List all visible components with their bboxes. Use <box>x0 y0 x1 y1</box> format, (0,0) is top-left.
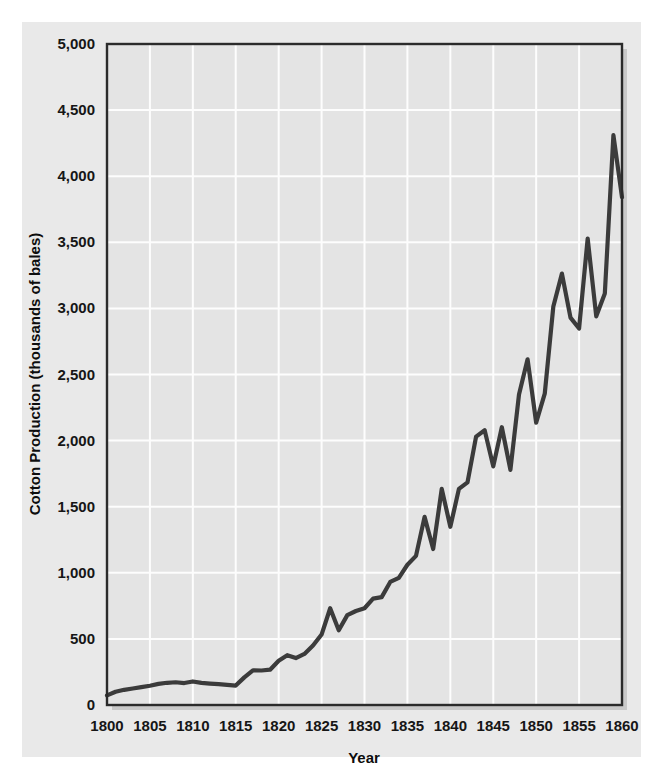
y-axis-tick-labels: 05001,0001,5002,0002,5003,0003,5004,0004… <box>57 35 95 713</box>
x-axis-title: Year <box>348 749 380 766</box>
x-tick-label: 1855 <box>562 717 595 734</box>
y-tick-label: 5,000 <box>57 35 95 52</box>
x-tick-label: 1825 <box>305 717 338 734</box>
y-tick-label: 500 <box>70 630 95 647</box>
figure-container: 05001,0001,5002,0002,5003,0003,5004,0004… <box>0 0 663 779</box>
x-tick-label: 1830 <box>348 717 381 734</box>
x-tick-label: 1860 <box>605 717 638 734</box>
y-tick-label: 2,500 <box>57 366 95 383</box>
y-tick-label: 4,500 <box>57 101 95 118</box>
y-tick-label: 0 <box>87 696 95 713</box>
cotton-production-line-chart: 05001,0001,5002,0002,5003,0003,5004,0004… <box>0 0 663 779</box>
y-tick-label: 3,000 <box>57 299 95 316</box>
x-tick-label: 1800 <box>90 717 123 734</box>
y-axis-title: Cotton Production (thousands of bales) <box>26 233 43 515</box>
x-tick-label: 1805 <box>133 717 166 734</box>
y-tick-label: 1,000 <box>57 564 95 581</box>
y-tick-label: 3,500 <box>57 233 95 250</box>
y-tick-label: 1,500 <box>57 498 95 515</box>
x-axis-tick-labels: 1800180518101815182018251830183518401845… <box>90 717 638 734</box>
x-tick-label: 1815 <box>219 717 252 734</box>
x-tick-label: 1835 <box>391 717 424 734</box>
y-tick-label: 2,000 <box>57 432 95 449</box>
x-tick-label: 1840 <box>434 717 467 734</box>
x-tick-label: 1845 <box>477 717 510 734</box>
y-tick-label: 4,000 <box>57 167 95 184</box>
x-tick-label: 1820 <box>262 717 295 734</box>
x-tick-label: 1810 <box>176 717 209 734</box>
x-tick-label: 1850 <box>519 717 552 734</box>
